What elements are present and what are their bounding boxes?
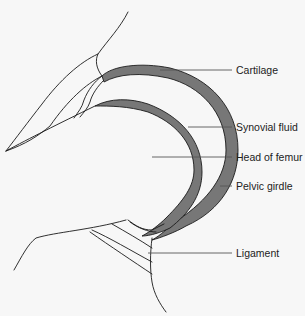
label-pelvic-girdle: Pelvic girdle	[236, 180, 293, 192]
pelvis-upper-inner	[6, 54, 102, 151]
pelvis-upper-outline	[6, 12, 128, 151]
label-synovial-fluid: Synovial fluid	[236, 121, 298, 133]
pelvis-lower-line	[6, 106, 95, 151]
label-cartilage: Cartilage	[236, 64, 278, 76]
pelvis-ridge-a	[74, 76, 102, 118]
label-head-of-femur: Head of femur	[236, 151, 303, 163]
femur-lateral	[151, 238, 167, 312]
ligament-band-1	[92, 230, 152, 262]
label-ligament: Ligament	[236, 247, 279, 259]
ligament-band-3	[90, 232, 152, 274]
